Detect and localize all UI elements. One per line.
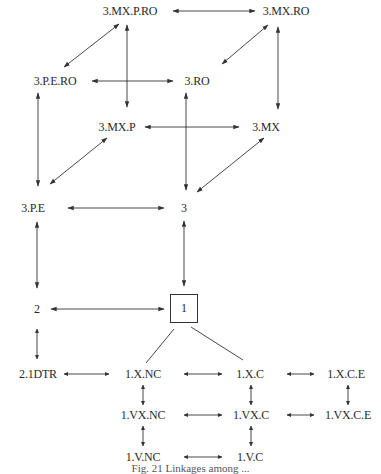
node-1-vx-c-e: 1.VX.C.E — [325, 408, 371, 422]
node-3-mx-p-ro: 3.MX.P.RO — [103, 4, 158, 18]
node-1-box: 1 — [170, 294, 198, 323]
edge-3mxro-3ro — [222, 25, 268, 64]
node-3: 3 — [181, 201, 187, 215]
node-1-x-c-e: 1.X.C.E — [327, 367, 365, 381]
node-2-1dtr: 2.1DTR — [19, 367, 57, 381]
node-3-mx: 3.MX — [252, 120, 280, 134]
node-3-p-e-ro: 3.P.E.RO — [34, 74, 77, 88]
node-3-mx-ro: 3.MX.RO — [263, 4, 310, 18]
node-3-p-e: 3.P.E — [21, 201, 45, 215]
figure-caption: Fig. 21 Linkages among ... — [0, 462, 381, 474]
node-1-vx-nc: 1.VX.NC — [121, 408, 166, 422]
node-2: 2 — [34, 302, 40, 316]
node-3-mx-p: 3.MX.P — [99, 120, 136, 134]
diagram-edges — [0, 0, 381, 474]
edge-1-1xc — [191, 327, 243, 360]
edge-3mx-3 — [197, 138, 264, 192]
node-1-x-c: 1.X.C — [236, 367, 264, 381]
edge-3mxpro-3pero — [64, 24, 119, 67]
node-3-ro: 3.RO — [185, 74, 210, 88]
node-1-x-nc: 1.X.NC — [125, 367, 161, 381]
edge-3mxp-3pe — [50, 138, 107, 184]
node-1-vx-c: 1.VX.C — [233, 408, 269, 422]
edge-1-1xnc — [146, 329, 174, 363]
